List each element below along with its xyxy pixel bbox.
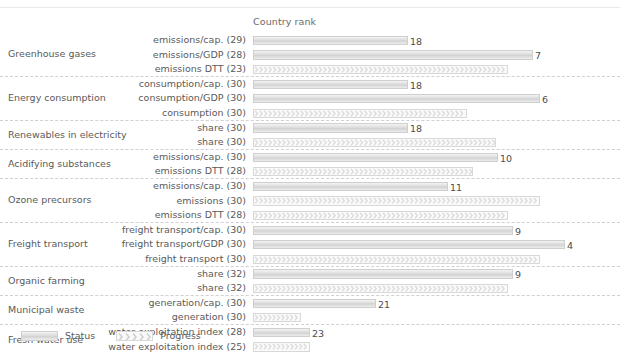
chart-row: share (32)9 [0,267,620,282]
country-rank-bar-chart: Country rank Greenhouse gasesemissions/c… [0,0,620,354]
row-label: share (32) [197,267,246,282]
bar-wrapper: 23 [253,328,310,337]
chart-row: freight transport/GDP (30)4 [0,237,620,252]
rank-value: 18 [410,81,422,90]
chart-row: share (30)18 [0,121,620,136]
bar-wrapper: 11 [253,182,448,191]
progress-bar[interactable]: 9 [253,284,508,293]
rank-value: 7 [535,51,541,60]
row-label: generation/cap. (30) [149,296,246,311]
rank-value: 10 [500,154,512,163]
bar-wrapper: 27 [253,313,301,322]
rank-value: 9 [515,227,521,236]
bar-wrapper: 18 [253,123,408,132]
row-label: emissions DTT (28) [155,164,246,179]
progress-bar[interactable]: 6 [253,255,540,264]
legend-progress-swatch [116,331,153,341]
chart-row: consumption (30)13 [0,106,620,121]
bar-wrapper: 9 [253,226,513,235]
status-bar[interactable]: 18 [253,80,408,89]
status-bar[interactable]: 18 [253,36,408,45]
legend-status-swatch [21,331,58,341]
chart-row: water exploitation index (25)23 [0,340,620,354]
chart-row: consumption/GDP (30)6 [0,91,620,106]
row-label: freight transport/GDP (30) [122,237,246,252]
bar-wrapper: 6 [253,94,540,103]
chart-group: Organic farmingshare (32)9share (32)9 [0,267,620,296]
chart-group: Acidifying substancesemissions/cap. (30)… [0,150,620,179]
bar-wrapper: 12 [253,167,473,176]
bar-wrapper: 9 [253,65,508,74]
rank-value: 4 [567,241,573,250]
row-label: share (30) [197,135,246,150]
bar-wrapper: 6 [253,255,540,264]
rank-value: 23 [312,329,324,338]
row-label: emissions DTT (28) [155,208,246,223]
rank-value: 6 [542,95,548,104]
chart-row: emissions (30)6 [0,194,620,209]
status-bar[interactable]: 21 [253,299,376,308]
progress-bar[interactable]: 12 [253,167,473,176]
bar-wrapper: 13 [253,109,467,118]
chart-legend: Status Progress [21,330,215,341]
rank-value: 18 [410,124,422,133]
rank-value: 9 [515,270,521,279]
bar-wrapper: 4 [253,240,565,249]
chart-group: Ozone precursorsemissions/cap. (30)11emi… [0,179,620,223]
status-bar[interactable]: 9 [253,226,513,235]
status-bar[interactable]: 6 [253,94,540,103]
chart-row: freight transport (30)6 [0,252,620,267]
row-label: consumption (30) [162,106,246,121]
bar-wrapper: 23 [253,342,310,351]
bar-wrapper: 10 [253,138,496,147]
status-bar[interactable]: 7 [253,50,533,59]
legend-progress-label: Progress [160,330,201,341]
row-label: emissions/cap. (30) [153,150,246,165]
bar-wrapper: 21 [253,299,376,308]
chart-row: emissions DTT (28)9 [0,208,620,223]
chart-row: emissions DTT (23)9 [0,62,620,77]
progress-bar[interactable]: 13 [253,109,467,118]
row-label: emissions (30) [176,194,246,209]
chart-row: emissions/cap. (30)10 [0,150,620,165]
progress-bar[interactable]: 6 [253,196,540,205]
progress-bar[interactable]: 9 [253,65,508,74]
row-label: water exploitation index (25) [108,340,246,354]
bar-wrapper: 6 [253,196,540,205]
chart-row: consumption/cap. (30)18 [0,77,620,92]
status-bar[interactable]: 11 [253,182,448,191]
bar-wrapper: 7 [253,50,533,59]
progress-bar[interactable]: 9 [253,211,508,220]
chart-row: generation (30)27 [0,310,620,325]
status-bar[interactable]: 23 [253,328,310,337]
row-label: consumption/GDP (30) [138,91,246,106]
progress-bar[interactable]: 27 [253,313,301,322]
status-bar[interactable]: 4 [253,240,565,249]
row-label: emissions/GDP (28) [153,48,246,63]
status-bar[interactable]: 18 [253,123,408,132]
chart-row: emissions/cap. (30)11 [0,179,620,194]
progress-bar[interactable]: 23 [253,342,310,351]
chart-group: Municipal wastegeneration/cap. (30)21gen… [0,296,620,325]
row-label: share (30) [197,121,246,136]
chart-row: emissions DTT (28)12 [0,164,620,179]
row-label: freight transport/cap. (30) [122,223,246,238]
chart-group: Greenhouse gasesemissions/cap. (29)18emi… [0,33,620,77]
chart-group: Energy consumptionconsumption/cap. (30)1… [0,77,620,121]
chart-row: share (32)9 [0,281,620,296]
row-label: consumption/cap. (30) [139,77,246,92]
row-label: share (32) [197,281,246,296]
chart-group: Freight transportfreight transport/cap. … [0,223,620,267]
rank-value: 18 [410,37,422,46]
bar-wrapper: 10 [253,153,498,162]
rank-value: 21 [378,300,390,309]
legend-status-label: Status [65,330,95,341]
bar-wrapper: 18 [253,36,408,45]
status-bar[interactable]: 10 [253,153,498,162]
progress-bar[interactable]: 10 [253,138,496,147]
row-label: emissions/cap. (30) [153,179,246,194]
status-bar[interactable]: 9 [253,269,513,278]
chart-row: share (30)10 [0,135,620,150]
rank-value: 11 [450,183,462,192]
row-label: emissions DTT (23) [155,62,246,77]
